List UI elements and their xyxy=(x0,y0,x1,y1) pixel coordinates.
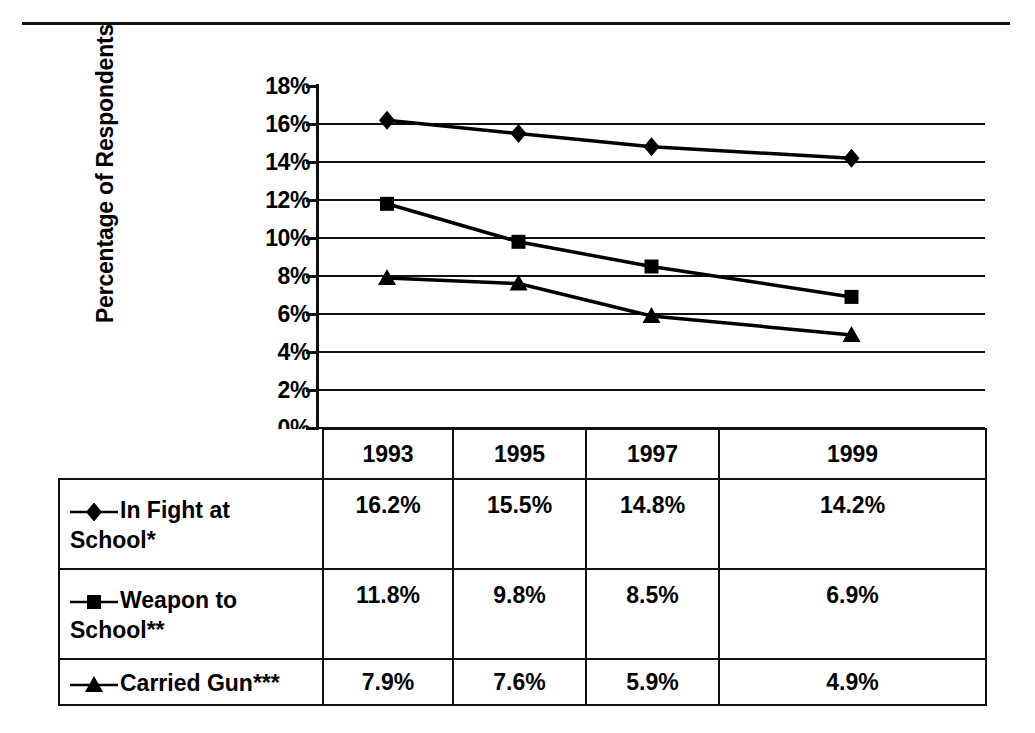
diamond-marker xyxy=(644,137,660,156)
y-tick-label: 8% xyxy=(232,265,310,288)
legend-key xyxy=(70,672,118,690)
square-legend-icon xyxy=(70,593,118,611)
y-tick-mark xyxy=(306,427,319,430)
table-cell: 14.8% xyxy=(586,479,719,569)
diamond-marker xyxy=(86,503,102,521)
series-group xyxy=(379,111,860,168)
y-tick-mark xyxy=(306,351,319,354)
diamond-marker xyxy=(844,149,860,168)
table-corner-cell xyxy=(59,429,323,479)
y-tick-label: 12% xyxy=(232,189,310,212)
y-tick-mark xyxy=(306,275,319,278)
data-table: 1993199519971999 In Fight at School*16.2… xyxy=(58,428,987,706)
y-tick-mark xyxy=(306,161,319,164)
y-tick-mark xyxy=(306,199,319,202)
y-tick-label: 14% xyxy=(232,151,310,174)
table-cell: 16.2% xyxy=(323,479,453,569)
y-tick-mark xyxy=(306,389,319,392)
series-lines-svg xyxy=(316,86,985,428)
legend-label: Carried Gun*** xyxy=(120,669,280,695)
y-axis-title: Percentage of Respondents xyxy=(92,9,119,339)
series-group xyxy=(378,269,861,342)
table-cell: 7.6% xyxy=(453,659,586,705)
y-tick-label: 4% xyxy=(232,341,310,364)
table-column-header: 1999 xyxy=(719,429,986,479)
table-row: Weapon to School**11.8%9.8%8.5%6.9% xyxy=(59,569,986,659)
y-tick-label: 2% xyxy=(232,379,310,402)
y-tick-mark xyxy=(306,123,319,126)
table-header-row: 1993199519971999 xyxy=(59,429,986,479)
legend-key xyxy=(70,499,118,517)
table-cell: 14.2% xyxy=(719,479,986,569)
table-cell: 15.5% xyxy=(453,479,586,569)
legend-key xyxy=(70,589,118,607)
table-body: In Fight at School*16.2%15.5%14.8%14.2%W… xyxy=(59,479,986,705)
y-axis-tick-labels: 18%16%14%12%10%8%6%4%2%0% xyxy=(232,70,310,442)
y-tick-label: 18% xyxy=(232,75,310,98)
square-marker xyxy=(380,197,394,211)
diamond-marker xyxy=(511,124,527,143)
table-row: Carried Gun***7.9%7.6%5.9%4.9% xyxy=(59,659,986,705)
triangle-legend-icon xyxy=(70,676,118,694)
line-chart-figure: Percentage of Respondents 18%16%14%12%10… xyxy=(0,0,1035,733)
table-cell: 8.5% xyxy=(586,569,719,659)
square-marker xyxy=(87,595,101,609)
y-tick-label: 16% xyxy=(232,113,310,136)
diamond-legend-icon xyxy=(70,503,118,521)
plot-area xyxy=(316,86,985,428)
table-column-header: 1997 xyxy=(586,429,719,479)
legend-cell: Weapon to School** xyxy=(59,569,323,659)
series-line xyxy=(387,120,852,158)
table-cell: 4.9% xyxy=(719,659,986,705)
square-marker xyxy=(512,235,526,249)
table-column-header: 1995 xyxy=(453,429,586,479)
y-tick-mark xyxy=(306,237,319,240)
table-cell: 7.9% xyxy=(323,659,453,705)
square-marker xyxy=(645,260,659,274)
series-line xyxy=(387,204,852,297)
table-cell: 6.9% xyxy=(719,569,986,659)
diamond-marker xyxy=(379,111,395,130)
square-marker xyxy=(845,290,859,304)
table-cell: 5.9% xyxy=(586,659,719,705)
legend-cell: In Fight at School* xyxy=(59,479,323,569)
series-group xyxy=(380,197,859,304)
y-tick-mark xyxy=(306,85,319,88)
y-tick-label: 6% xyxy=(232,303,310,326)
table-head: 1993199519971999 xyxy=(59,429,986,479)
legend-cell: Carried Gun*** xyxy=(59,659,323,705)
y-tick-mark xyxy=(306,313,319,316)
y-tick-label: 10% xyxy=(232,227,310,250)
table-row: In Fight at School*16.2%15.5%14.8%14.2% xyxy=(59,479,986,569)
table-column-header: 1993 xyxy=(323,429,453,479)
table-cell: 9.8% xyxy=(453,569,586,659)
table-cell: 11.8% xyxy=(323,569,453,659)
